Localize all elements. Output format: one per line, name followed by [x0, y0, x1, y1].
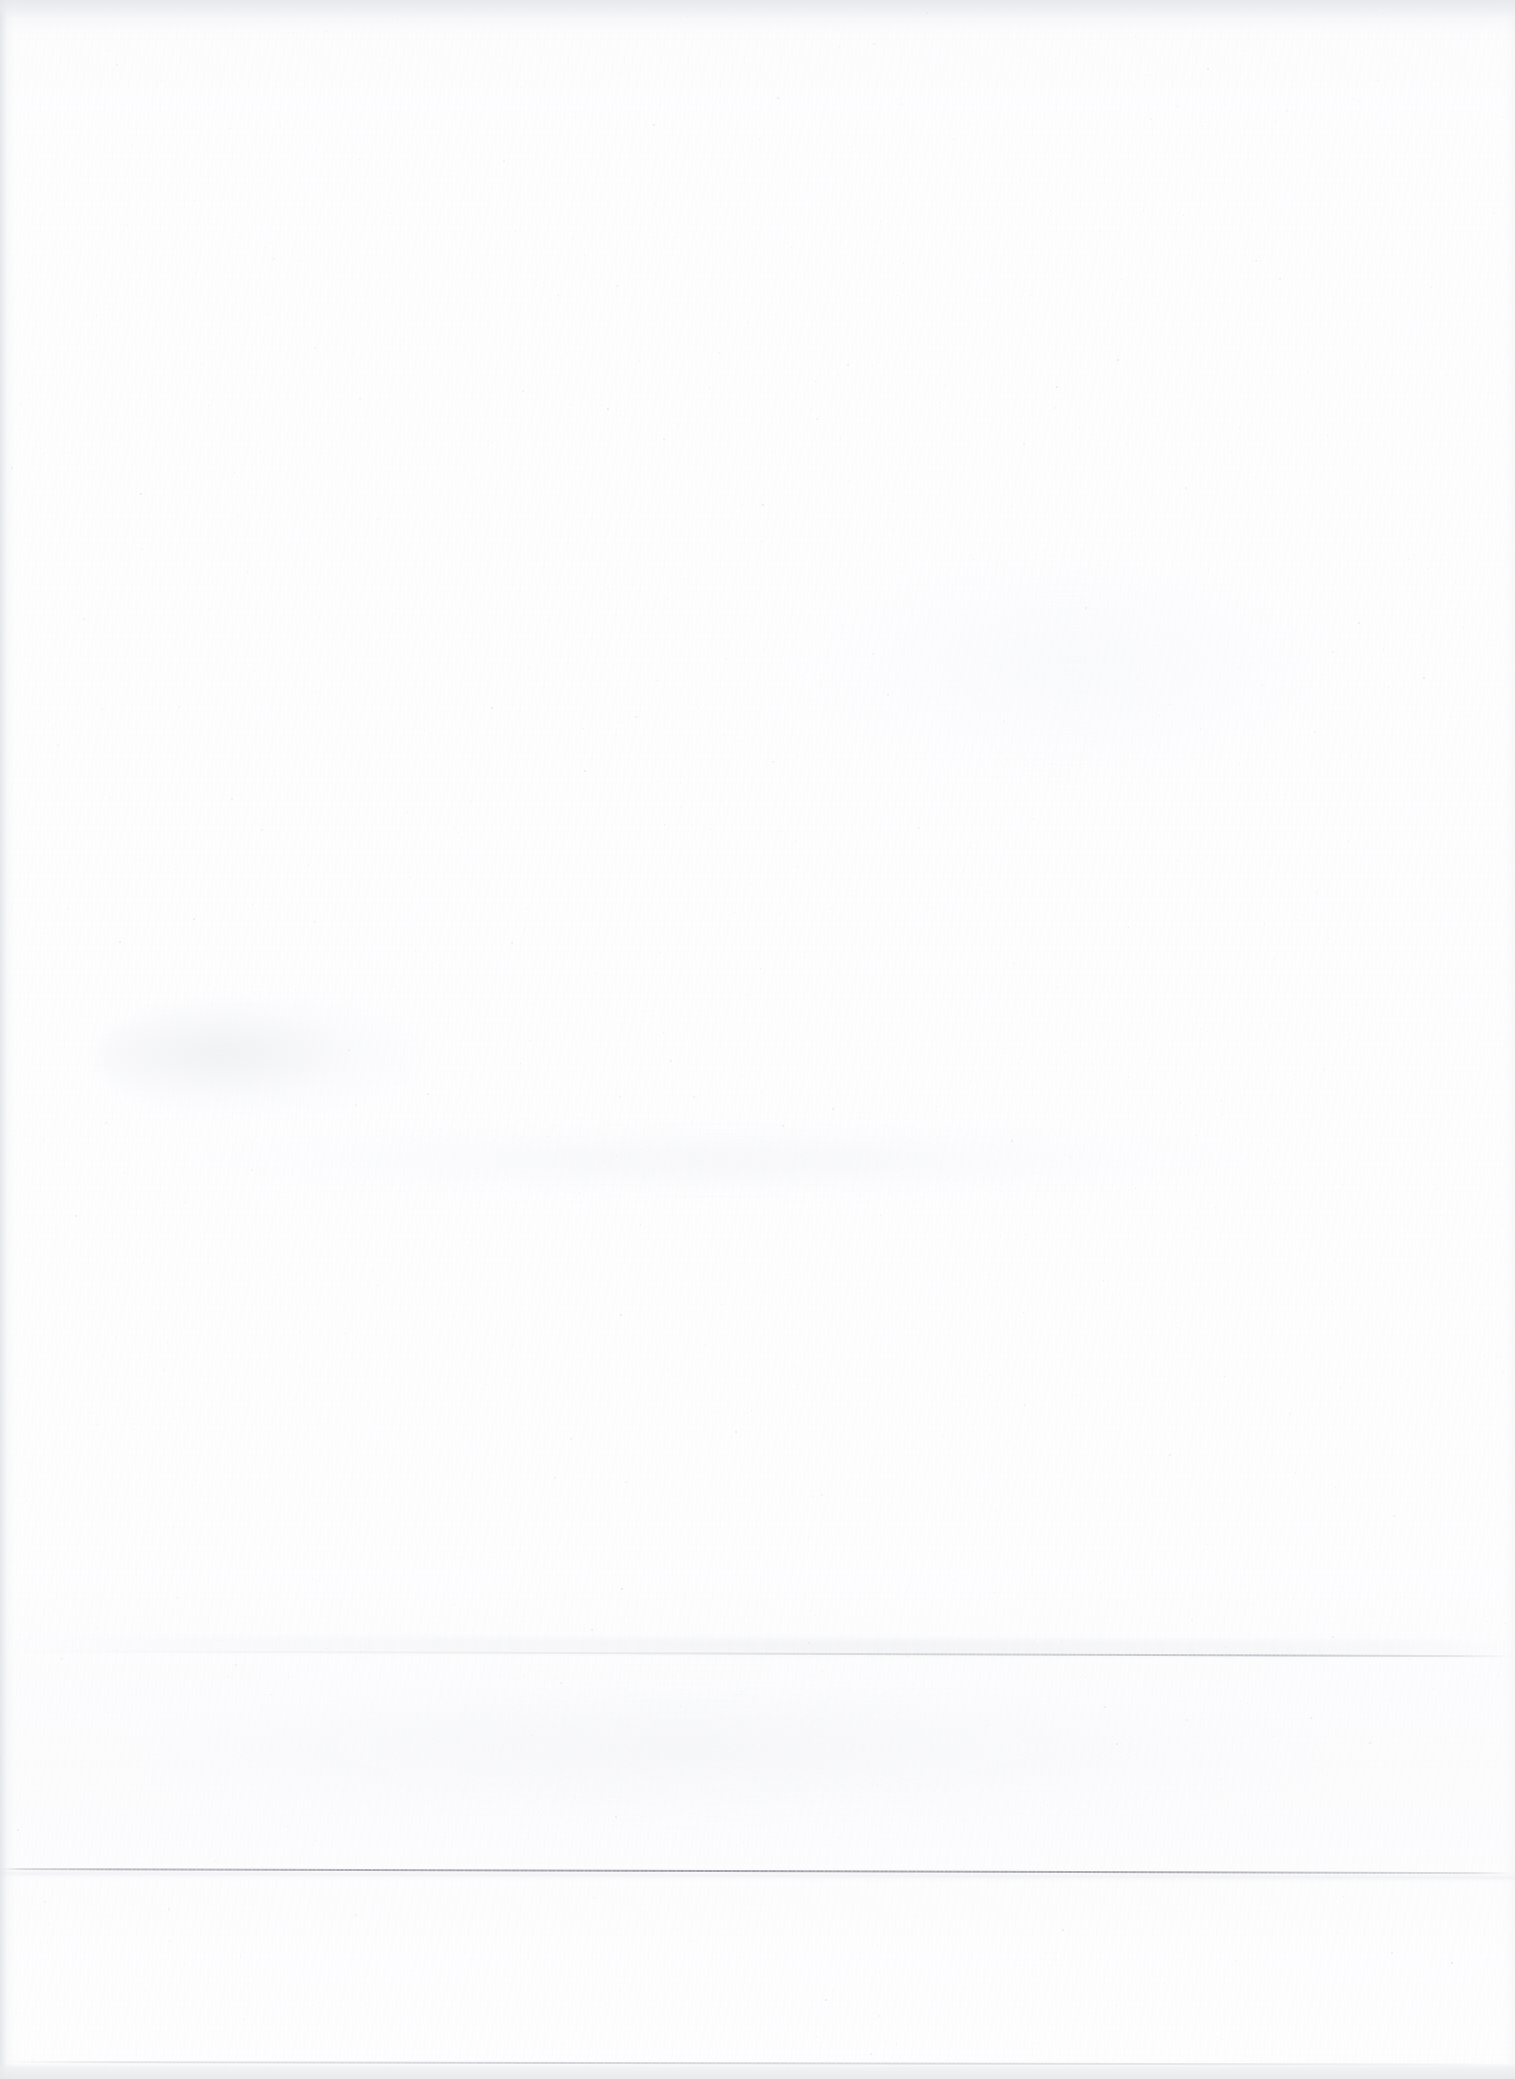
scanned-page — [0, 0, 1515, 2079]
bottom-edge-band — [0, 2063, 1515, 2079]
paper-shading — [0, 0, 1515, 2079]
right-edge-falloff — [1495, 0, 1515, 2079]
top-edge-band — [0, 0, 1515, 18]
left-gutter-shadow — [0, 0, 26, 2079]
